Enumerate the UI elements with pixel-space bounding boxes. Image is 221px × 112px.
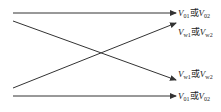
or-text: 或: [191, 27, 200, 37]
subscript: 02: [204, 13, 210, 19]
ascending-diagonal-arrow: [13, 23, 176, 88]
label-third: Vw1或Vw2: [178, 69, 213, 82]
descending-diagonal-arrow: [13, 21, 176, 80]
label-bottom: V01或V02: [178, 91, 210, 104]
subscript: w2: [205, 74, 212, 80]
or-text: 或: [190, 8, 199, 18]
subscript: w1: [184, 32, 191, 38]
label-top: V01或V02: [178, 8, 210, 21]
or-text: 或: [190, 91, 199, 101]
crossing-arrows-diagram: V01或V02 Vw1或Vw2 Vw1或Vw2 V01或V02: [0, 0, 221, 112]
or-text: 或: [191, 69, 200, 79]
subscript: w2: [205, 32, 212, 38]
label-second: Vw1或Vw2: [178, 27, 213, 40]
subscript: 02: [204, 96, 210, 102]
subscript: w1: [184, 74, 191, 80]
